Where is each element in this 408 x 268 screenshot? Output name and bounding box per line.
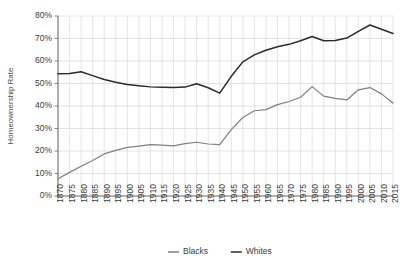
y-tick-label: 80% xyxy=(35,10,52,20)
chart-svg: 0%10%20%30%40%50%60%70%80% 1870187518801… xyxy=(0,0,408,268)
x-tick-label: 1910 xyxy=(148,184,158,203)
x-tick-label: 1965 xyxy=(275,184,285,203)
legend-label-whites: Whites xyxy=(246,246,272,256)
y-axis xyxy=(55,16,59,196)
x-tick-label: 1890 xyxy=(102,184,112,203)
x-tick-label: 2010 xyxy=(379,184,389,203)
y-tick-label: 70% xyxy=(35,33,52,43)
y-axis-title: Homeownership Rate xyxy=(6,67,15,144)
x-tick-label: 1995 xyxy=(344,184,354,203)
y-tick-label: 50% xyxy=(35,78,52,88)
x-tick-label: 1905 xyxy=(136,184,146,203)
x-tick-label: 1940 xyxy=(217,184,227,203)
y-tick-label: 20% xyxy=(35,145,52,155)
x-tick-label: 1975 xyxy=(298,184,308,203)
x-tick-label: 1955 xyxy=(252,184,262,203)
chart-legend: BlacksWhites xyxy=(168,246,272,256)
x-tick-label: 1885 xyxy=(90,184,100,203)
y-tick-label: 60% xyxy=(35,55,52,65)
x-tick-label: 1980 xyxy=(310,184,320,203)
x-tick-label: 1935 xyxy=(206,184,216,203)
homeownership-rate-chart: 0%10%20%30%40%50%60%70%80% 1870187518801… xyxy=(0,0,408,268)
y-axis-title-text: Homeownership Rate xyxy=(6,67,15,144)
x-tick-label: 1895 xyxy=(113,184,123,203)
x-tick-labels: 1870187518801885189018951900190519101915… xyxy=(55,184,400,203)
x-tick-label: 1870 xyxy=(55,184,65,203)
x-tick-label: 1960 xyxy=(263,184,273,203)
y-tick-label: 40% xyxy=(35,100,52,110)
y-tick-label: 10% xyxy=(35,168,52,178)
x-tick-label: 2000 xyxy=(356,184,366,203)
legend-label-blacks: Blacks xyxy=(183,246,208,256)
x-tick-label: 1970 xyxy=(286,184,296,203)
y-tick-label: 30% xyxy=(35,123,52,133)
x-tick-label: 1985 xyxy=(321,184,331,203)
x-tick-label: 1930 xyxy=(194,184,204,203)
x-tick-label: 1925 xyxy=(183,184,193,203)
x-tick-label: 1920 xyxy=(171,184,181,203)
x-tick-label: 1990 xyxy=(333,184,343,203)
x-tick-label: 2005 xyxy=(367,184,377,203)
x-tick-label: 1945 xyxy=(229,184,239,203)
x-tick-label: 1880 xyxy=(79,184,89,203)
x-tick-label: 1900 xyxy=(125,184,135,203)
y-tick-labels: 0%10%20%30%40%50%60%70%80% xyxy=(35,10,52,200)
x-tick-label: 1950 xyxy=(240,184,250,203)
x-tick-label: 1875 xyxy=(67,184,77,203)
x-tick-label: 1915 xyxy=(159,184,169,203)
y-tick-label: 0% xyxy=(40,190,53,200)
x-tick-label: 2015 xyxy=(390,184,400,203)
